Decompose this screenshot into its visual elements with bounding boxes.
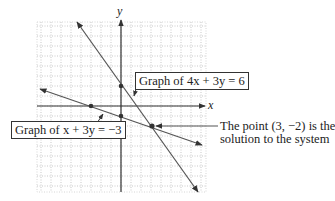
label-x-3y-neg3: Graph of x + 3y = −3 [11,121,126,139]
x-axis-label: x [208,98,213,113]
label-equation: x + 3y = −3 [63,123,122,137]
y-axis-label: y [117,4,122,19]
solution-point [149,123,154,128]
point-0-neg1 [119,114,124,119]
label-prefix: Graph of [15,123,63,137]
point-neg3-0 [89,104,94,109]
solution-note: The point (3, −2) is the solution to the… [220,120,335,146]
line-4x-3y-6 [77,22,198,192]
solution-note-line2: solution to the system [220,133,335,146]
label-prefix: Graph of [139,74,187,88]
label-equation: 4x + 3y = 6 [187,74,245,88]
point-0-2 [119,84,124,89]
label-4x-3y-6: Graph of 4x + 3y = 6 [135,72,249,90]
